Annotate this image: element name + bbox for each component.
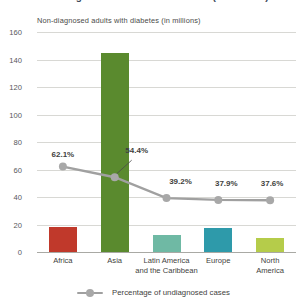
y-axis-tick-label: 80 (0, 138, 22, 147)
data-point-label: 62.1% (52, 150, 75, 159)
data-point-marker (214, 196, 222, 204)
data-point-label: 39.2% (169, 177, 192, 186)
y-axis-tick-label: 20 (0, 220, 22, 229)
y-axis-tick-label: 100 (0, 110, 22, 119)
y-axis-tick-label: 40 (0, 193, 22, 202)
label-leader-line (116, 160, 132, 174)
y-axis-tick-label: 120 (0, 83, 22, 92)
data-point-marker (266, 196, 274, 204)
line-series (37, 32, 296, 252)
chart-container: Non-diagnosed adults with diabetes (in m… (0, 0, 307, 304)
data-point-label: 37.6% (261, 179, 284, 188)
y-axis-tick-label: 60 (0, 165, 22, 174)
plot-area: 02040608010012014016062.1%54.4%39.2%37.9… (37, 32, 296, 252)
y-axis-tick-label: 160 (0, 28, 22, 37)
y-axis-title: Non-diagnosed adults with diabetes (in m… (37, 16, 201, 25)
axis-baseline (37, 252, 296, 253)
legend-item-label: Percentage of undiagnosed cases (112, 288, 230, 297)
data-point-label: 37.9% (215, 179, 238, 188)
line-marker-icon (77, 288, 103, 297)
page-title: Non-diagnosed adults with diabetes (in m… (0, 0, 307, 5)
y-axis-tick-label: 140 (0, 55, 22, 64)
chart-legend: Percentage of undiagnosed cases (0, 288, 307, 297)
data-point-marker (163, 194, 171, 202)
data-point-label: 54.4% (125, 146, 148, 155)
x-axis-category-label: North America (225, 256, 307, 275)
data-point-marker (111, 173, 119, 181)
data-point-marker (59, 163, 67, 171)
